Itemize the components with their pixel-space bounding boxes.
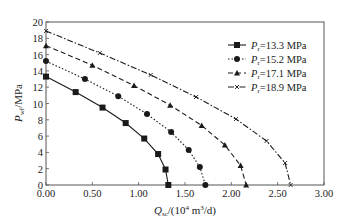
circle-marker [186,147,192,153]
circle-marker [234,56,240,62]
circle-marker [82,76,88,82]
y-tick-label: 16 [33,50,44,61]
triangle-marker [167,102,173,108]
y-axis-ticks: 02468101214161820 [33,17,50,191]
legend: Pr=13.3 MPaPr=15.2 MPaPr=17.1 MPaPr=18.9… [228,40,307,95]
legend-item: Pr=15.2 MPa [228,54,307,67]
y-tick-label: 8 [38,115,43,126]
y-tick-label: 10 [33,99,44,110]
triangle-marker [131,83,137,89]
square-marker [73,89,79,95]
triangle-marker [199,123,205,129]
series-layer [43,29,293,188]
x-tick-label: 0.00 [37,188,55,199]
y-tick-label: 4 [38,147,44,158]
square-marker [155,151,161,157]
legend-label: Pr=13.3 MPa [250,40,307,53]
y-label-rest: /MPa [12,84,24,108]
y-tick-label: 2 [38,164,43,175]
circle-marker [144,111,150,117]
y-tick-label: 14 [33,66,44,77]
x-marker [265,139,269,143]
y-tick-label: 6 [38,131,43,142]
legend-item: Pr=17.1 MPa [228,68,307,81]
x-label-mid: m [189,204,201,216]
square-marker [43,74,49,80]
square-marker [163,167,169,173]
x-tick-label: 3.00 [315,188,333,199]
square-marker [234,42,240,48]
legend-item: Pr=18.9 MPa [228,82,307,95]
x-axis-label: Qsc/(104 m3/d) [154,204,216,218]
legend-label: Pr=18.9 MPa [250,82,307,95]
x-tick-label: 0.50 [83,188,101,199]
circle-marker [202,182,208,188]
y-tick-label: 20 [33,17,44,28]
x-tick-label: 2.00 [222,188,240,199]
legend-item: Pr=13.3 MPa [228,40,307,53]
x-label-end: /d) [204,204,217,217]
x-marker [98,51,102,55]
x-marker [235,85,239,89]
x-label-main: Q [154,204,162,216]
y-tick-label: 18 [33,33,44,44]
circle-marker [168,129,174,135]
x-marker [149,73,153,77]
x-tick-label: 2.50 [268,188,286,199]
y-tick-label: 12 [33,82,44,93]
x-marker [194,95,198,99]
legend-label: Pr=15.2 MPa [250,54,307,67]
triangle-marker [89,62,95,68]
x-label-rest: /(10 [168,204,186,217]
square-marker [100,105,106,111]
series-line [46,77,168,185]
circle-marker [43,58,49,64]
x-marker [234,117,238,121]
series-4 [44,29,293,187]
square-marker [165,182,171,188]
chart: 02468101214161820 0.000.501.001.502.002.… [0,0,347,224]
circle-marker [197,164,203,170]
x-tick-label: 1.00 [129,188,147,199]
circle-marker [115,93,121,99]
legend-label: Pr=17.1 MPa [250,68,307,81]
x-tick-label: 1.50 [176,188,194,199]
y-axis-label: Pwf/MPa [12,84,26,123]
square-marker [123,120,129,126]
triangle-marker [43,43,49,49]
square-marker [141,136,147,142]
